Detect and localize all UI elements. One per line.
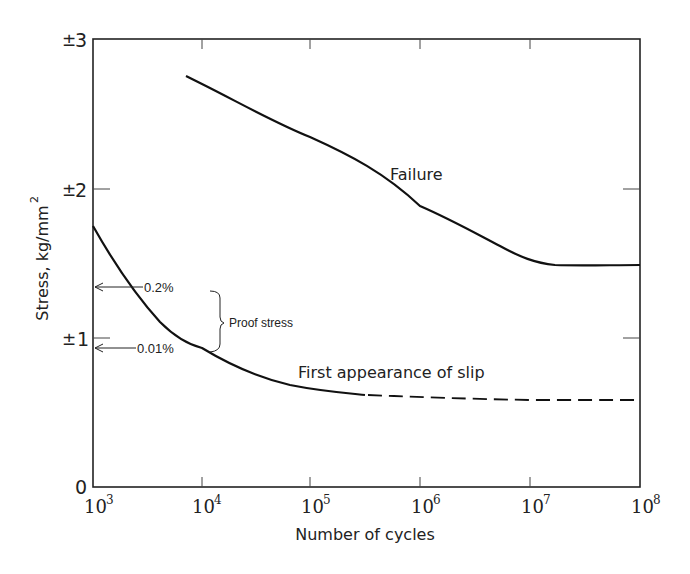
y-axis-label-sup: 2 [28, 196, 41, 203]
x-tick-exp: 5 [323, 493, 331, 507]
x-tick-base: 10 [411, 496, 434, 517]
x-tick-exp: 3 [106, 493, 114, 507]
slip-curve-dashed [368, 395, 640, 400]
x-tick-base: 10 [631, 496, 654, 517]
plot-frame [93, 39, 640, 487]
x-tick-base: 10 [84, 496, 107, 517]
x-tick-exp: 8 [653, 493, 661, 507]
y-tick-0: 0 [75, 476, 87, 498]
x-tick-exp: 4 [214, 493, 222, 507]
x-ticks [202, 39, 530, 487]
label-0-01-percent: 0.01% [137, 341, 174, 356]
x-tick-exp: 7 [543, 493, 551, 507]
label-0-2-percent: 0.2% [144, 280, 174, 295]
y-tick-3: 3 [75, 29, 87, 51]
label-failure: Failure [390, 165, 443, 184]
x-axis-label: Number of cycles [295, 525, 435, 544]
sn-chart: ± 3 ± 2 ± 1 0 103 104 105 106 107 108 Nu… [0, 0, 690, 574]
y-tick-pm: ± [62, 329, 76, 349]
label-first-slip: First appearance of slip [298, 363, 485, 382]
y-ticks [93, 189, 640, 338]
y-axis-label: Stress, kg/mm 2 [28, 196, 52, 321]
y-tick-2: 2 [75, 179, 87, 201]
x-tick-base: 10 [192, 496, 215, 517]
label-proof-stress: Proof stress [229, 316, 293, 330]
x-tick-base: 10 [521, 496, 544, 517]
proof-stress-brace [210, 291, 224, 352]
y-tick-1: 1 [77, 328, 89, 350]
x-tick-base: 10 [301, 496, 324, 517]
x-tick-exp: 6 [433, 493, 441, 507]
y-axis-label-text: Stress, kg/mm [33, 205, 52, 320]
x-tick-labels: 103 104 105 106 107 108 [84, 493, 661, 517]
y-tick-labels: ± 3 ± 2 ± 1 0 [62, 29, 89, 498]
